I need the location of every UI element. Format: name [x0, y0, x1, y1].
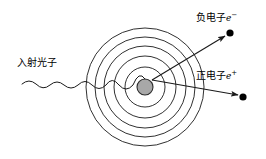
- electron-endpoint-dot: [226, 29, 233, 36]
- incident-photon-text: 入射光子: [17, 57, 57, 68]
- label-incident-photon: 入射光子: [17, 57, 57, 68]
- positron-charge: +: [231, 69, 237, 77]
- nucleus: [137, 79, 153, 95]
- negative-electron-charge: −: [231, 11, 237, 19]
- pair-production-figure: 入射光子 负电子e− 正电子e+: [0, 0, 266, 159]
- negative-electron-text: 负电子: [196, 12, 226, 23]
- positron-text: 正电子: [196, 70, 226, 81]
- positron-endpoint-dot: [239, 93, 246, 100]
- label-positron: 正电子e+: [196, 70, 237, 82]
- label-negative-electron: 负电子e−: [196, 12, 237, 24]
